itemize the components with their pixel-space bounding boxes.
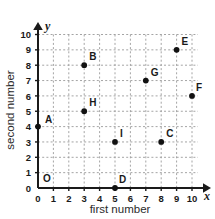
x-tick-label: 1 (51, 193, 57, 204)
data-point-label: A (45, 114, 52, 125)
data-point-label: D (119, 174, 126, 185)
data-point-marker (143, 78, 149, 84)
data-point-label: G (151, 67, 159, 78)
y-tick-label: 2 (26, 152, 31, 163)
data-point-marker (112, 185, 118, 191)
y-tick-label: 10 (20, 29, 31, 40)
data-point: F (189, 82, 202, 99)
x-tick-label: 8 (159, 193, 164, 204)
data-point-marker (174, 47, 180, 53)
y-axis-title: second number (4, 70, 16, 149)
x-axis-title: first number (90, 203, 151, 215)
data-point-group: ABCDEFGHI (35, 36, 202, 191)
x-tick-label: 10 (187, 193, 198, 204)
x-tick-label: 9 (174, 193, 179, 204)
data-point-marker (35, 124, 41, 130)
data-point-label: C (166, 128, 173, 139)
y-variable-label: y (43, 19, 51, 33)
y-tick-label: 0 (26, 183, 31, 194)
y-tick-label: 1 (26, 167, 32, 178)
data-point-label: E (182, 36, 189, 47)
x-variable-label: x (203, 189, 210, 203)
y-tick-label: 5 (26, 106, 32, 117)
data-point-marker (189, 93, 195, 99)
x-tick-label: 2 (66, 193, 71, 204)
data-point-marker (158, 139, 164, 145)
data-point-marker (81, 108, 87, 114)
y-axis (33, 22, 43, 188)
origin-label: O (43, 173, 51, 184)
y-tick-label: 8 (26, 60, 31, 71)
data-point-marker (112, 139, 118, 145)
x-tick-label: 0 (35, 193, 40, 204)
data-point: I (112, 128, 123, 145)
y-tick-label: 3 (26, 137, 31, 148)
data-point-label: I (120, 128, 123, 139)
horizontal-gridlines (38, 35, 198, 173)
data-point-label: B (89, 51, 96, 62)
y-tick-label: 4 (26, 121, 32, 132)
y-tick-label: 6 (26, 91, 31, 102)
y-tick-label: 9 (26, 44, 31, 55)
x-tick-label: 3 (82, 193, 87, 204)
coordinate-plane-screenshot: 012345678910 012345678910 ABCDEFGHI O fi… (0, 0, 215, 219)
scatter-plot: 012345678910 012345678910 ABCDEFGHI O fi… (0, 0, 215, 219)
data-point-marker (81, 62, 87, 68)
y-axis-tick-labels: 012345678910 (20, 29, 31, 194)
y-axis-arrowhead (33, 22, 43, 30)
data-point-label: F (196, 82, 202, 93)
data-point-label: H (89, 97, 96, 108)
y-tick-label: 7 (26, 75, 31, 86)
